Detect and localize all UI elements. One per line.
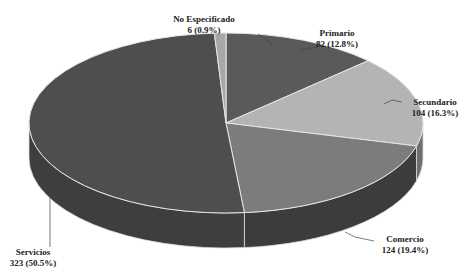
label-name: Secundario bbox=[404, 97, 466, 108]
label-no-especificado: No Especificado 6 (0.9%) bbox=[150, 14, 258, 36]
label-secundario: Secundario 104 (16.3%) bbox=[404, 97, 466, 119]
label-value: 82 (12.8%) bbox=[305, 39, 369, 50]
label-value: 124 (19.4%) bbox=[372, 245, 438, 256]
label-primario: Primario 82 (12.8%) bbox=[305, 28, 369, 50]
label-comercio: Comercio 124 (19.4%) bbox=[372, 234, 438, 256]
label-name: No Especificado bbox=[150, 14, 258, 25]
label-servicios: Servicios 323 (50.5%) bbox=[2, 247, 64, 269]
label-value: 323 (50.5%) bbox=[2, 258, 64, 269]
label-value: 6 (0.9%) bbox=[150, 25, 258, 36]
label-value: 104 (16.3%) bbox=[404, 108, 466, 119]
label-name: Comercio bbox=[372, 234, 438, 245]
leader-line bbox=[345, 232, 374, 241]
label-name: Servicios bbox=[2, 247, 64, 258]
label-name: Primario bbox=[305, 28, 369, 39]
